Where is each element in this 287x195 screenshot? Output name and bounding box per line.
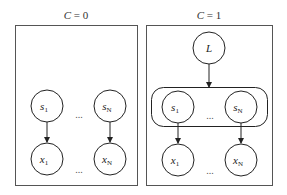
panel-c1: C = 1 L s1 sN x1 xN ... ... (147, 9, 273, 186)
ellipsis-x: ... (206, 165, 214, 176)
node-L-label: L (205, 42, 212, 54)
panel-c0-title: C = 0 (64, 9, 89, 21)
ellipsis-s: ... (75, 109, 83, 120)
graphical-model-diagram: C = 0 s1 sN x1 xN ... ... C = 1 L s1 sN … (0, 0, 287, 195)
panel-c0: C = 0 s1 sN x1 xN ... ... (16, 9, 138, 186)
ellipsis-x: ... (75, 164, 83, 175)
panel-c1-title: C = 1 (197, 9, 222, 21)
ellipsis-s: ... (206, 110, 214, 121)
